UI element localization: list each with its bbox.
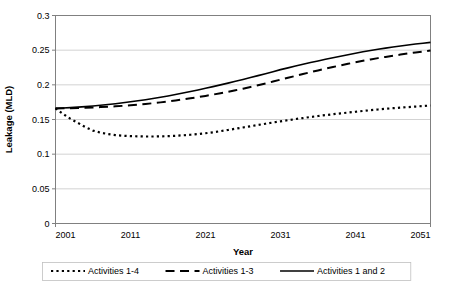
y-tick-label-0: 0 bbox=[44, 219, 49, 229]
line-chart: 00.050.10.150.20.250.3 20012011202120312… bbox=[0, 0, 452, 303]
x-tick-label-2: 2021 bbox=[195, 230, 215, 240]
y-tick-label-3: 0.15 bbox=[32, 115, 50, 125]
x-axis-title: Year bbox=[233, 246, 253, 257]
y-tick-label-2: 0.1 bbox=[37, 149, 50, 159]
x-tick-label-3: 2031 bbox=[270, 230, 290, 240]
x-tick-label-1: 2011 bbox=[121, 230, 140, 240]
y-tick-label-5: 0.25 bbox=[32, 45, 50, 55]
y-tick-label-6: 0.3 bbox=[37, 11, 50, 21]
legend-label-0: Activities 1-4 bbox=[88, 266, 139, 276]
x-tick-label-5: 2051 bbox=[410, 230, 430, 240]
legend-label-2: Activities 1 and 2 bbox=[317, 266, 385, 276]
y-axis-title: Leakage (MLD) bbox=[3, 86, 14, 154]
chart-background bbox=[0, 0, 452, 303]
legend-label-1: Activities 1-3 bbox=[203, 266, 254, 276]
chart-canvas: 00.050.10.150.20.250.3 20012011202120312… bbox=[0, 0, 452, 303]
x-tick-label-4: 2041 bbox=[345, 230, 365, 240]
y-tick-label-1: 0.05 bbox=[32, 184, 50, 194]
x-tick-label-0: 2001 bbox=[56, 230, 76, 240]
y-tick-label-4: 0.2 bbox=[37, 80, 50, 90]
